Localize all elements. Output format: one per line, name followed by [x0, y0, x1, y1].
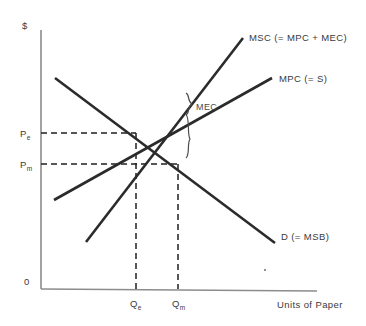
- label-mec: MEC: [196, 102, 217, 112]
- label-mpc: MPC (= S): [279, 73, 327, 84]
- label-demand: D (= MSB): [281, 231, 329, 242]
- label-msc: MSC (= MPC + MEC): [249, 32, 347, 43]
- y-axis-label: $: [22, 20, 28, 31]
- stray-mark: [264, 269, 266, 271]
- tick-quantity-market: Qm: [172, 298, 186, 311]
- curve-mpc: [54, 78, 272, 200]
- curve-demand: [55, 78, 275, 243]
- externality-diagram: MSC (= MPC + MEC) MPC (= S) D (= MSB) ME…: [0, 0, 366, 326]
- tick-price-efficient: Pe: [20, 128, 31, 141]
- tick-quantity-efficient: Qe: [130, 298, 142, 311]
- diagram-canvas: MSC (= MPC + MEC) MPC (= S) D (= MSB) ME…: [0, 0, 366, 326]
- curve-msc: [86, 38, 243, 242]
- x-axis: [41, 289, 317, 291]
- origin-label: 0: [24, 276, 30, 287]
- x-axis-label: Units of Paper: [277, 299, 343, 310]
- tick-price-market: Pm: [20, 159, 33, 172]
